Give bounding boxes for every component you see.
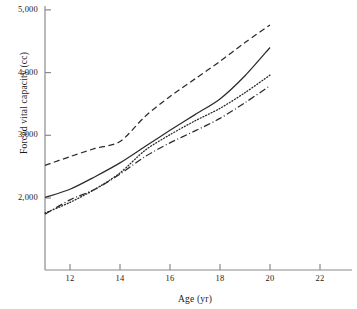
series-line-series-4 (45, 86, 270, 215)
x-tick-label: 16 (157, 273, 183, 283)
y-tick-label: 5,000 (4, 4, 38, 14)
series-line-series-1 (45, 25, 270, 165)
plot-area (0, 0, 357, 309)
x-tick-label: 18 (207, 273, 233, 283)
x-tick-label: 12 (57, 273, 83, 283)
y-axis-title: Forced vital capacity (cc) (13, 23, 27, 183)
x-tick-label: 20 (257, 273, 283, 283)
data-series-group (45, 25, 270, 214)
axis-lines (45, 6, 352, 270)
x-tick-label: 14 (107, 273, 133, 283)
y-tick-label: 2,000 (4, 192, 38, 202)
x-axis-title-text: Age (yr) (178, 294, 212, 304)
chart-figure: 2,0003,0004,0005,000 121416182022 Forced… (0, 0, 357, 309)
series-line-series-2 (45, 48, 270, 198)
x-axis-title: Age (yr) (45, 288, 345, 306)
x-tick-label: 22 (307, 273, 333, 283)
y-axis-ticks (45, 10, 51, 198)
y-axis-title-text: Forced vital capacity (cc) (19, 52, 29, 154)
series-line-series-3 (45, 75, 270, 213)
x-axis-ticks (70, 264, 320, 270)
